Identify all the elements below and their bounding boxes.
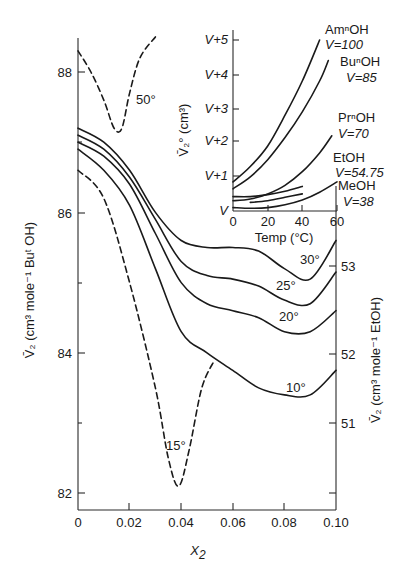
- label-30deg: 30°: [300, 252, 320, 267]
- y-right-tick-52: 52: [341, 347, 355, 362]
- curve-15deg: [78, 170, 215, 486]
- inset-label-amoh: AmⁿOH: [325, 22, 369, 37]
- left-tick-labels: 88 86 84 82: [58, 65, 72, 501]
- label-10deg: 10°: [286, 380, 306, 395]
- curve-50deg: [78, 37, 155, 132]
- inset-y-tick-5: V+5: [205, 32, 229, 47]
- y-tick-82: 82: [58, 486, 72, 501]
- inset-label-proh: PrⁿOH: [338, 110, 375, 125]
- x-tick-0: 0: [74, 515, 81, 530]
- x-tick-006: 0.06: [220, 515, 245, 530]
- inset-y-tick-2: V+2: [205, 133, 229, 148]
- x-tick-010: 0.10: [323, 515, 348, 530]
- inset-y-tick-1: V+1: [205, 168, 229, 183]
- label-15deg: 15°: [166, 438, 186, 453]
- left-axis-label: V̄₂ (cm³ mole⁻¹ Buᵗ OH): [22, 222, 37, 358]
- inset-chart: V+5 V+4 V+3 V+2 V+1 V 0 20 40 60 Temp (°…: [176, 22, 385, 245]
- y-right-tick-53: 53: [341, 259, 355, 274]
- label-20deg: 20°: [279, 309, 299, 324]
- inset-label-etoh: EtOH: [333, 150, 365, 165]
- inset-x-tick-60: 60: [330, 214, 344, 229]
- inset-x-tick-20: 20: [261, 214, 275, 229]
- inset-y-tick-0: V: [219, 203, 229, 218]
- inset-label-buoh: BuⁿOH: [340, 54, 380, 69]
- inset-curve-amoh: [233, 40, 320, 182]
- label-50deg: 50°: [136, 92, 156, 107]
- inset-y-tick-4: V+4: [205, 67, 229, 82]
- inset-x-axis-label: Temp (°C): [255, 230, 314, 245]
- inset-label-proh-v: V=70: [338, 126, 369, 141]
- right-axis-label: V̄₂ (cm³ mole⁻¹ EtOH): [368, 297, 383, 423]
- x-tick-004: 0.04: [168, 515, 193, 530]
- chart-figure: 88 86 84 82 53 52 51 0 0.02 0.04 0.06 0.…: [0, 0, 414, 581]
- x-axis-label: X2: [189, 543, 206, 562]
- curve-30deg: [78, 128, 336, 280]
- right-tick-labels: 53 52 51: [341, 259, 355, 431]
- x-tick-008: 0.08: [271, 515, 296, 530]
- inset-y-tick-3: V+3: [205, 101, 229, 116]
- y-tick-88: 88: [58, 65, 72, 80]
- inset-x-tick-40: 40: [295, 214, 309, 229]
- x-tick-002: 0.02: [116, 515, 141, 530]
- inset-label-amoh-v: V=100: [325, 37, 364, 52]
- inset-label-buoh-v: V=85: [346, 70, 377, 85]
- x-tick-labels: 0 0.02 0.04 0.06 0.08 0.10: [74, 515, 348, 530]
- y-right-tick-51: 51: [341, 416, 355, 431]
- curve-10deg: [78, 149, 336, 397]
- y-tick-84: 84: [58, 346, 72, 361]
- inset-x-tick-0: 0: [229, 214, 236, 229]
- inset-label-meoh-v: V=38: [343, 194, 374, 209]
- label-25deg: 25°: [276, 278, 296, 293]
- inset-y-axis-label: V̄₂° (cm³): [176, 104, 191, 157]
- inset-label-meoh: MeOH: [338, 178, 376, 193]
- y-tick-86: 86: [58, 206, 72, 221]
